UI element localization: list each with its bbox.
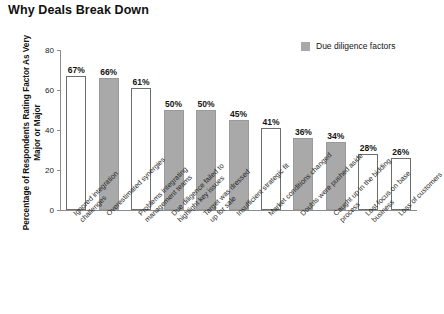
bar-value-label: 41% <box>262 117 279 127</box>
x-axis-category-labels: Ignored integrationchallengesOverestimat… <box>60 212 430 314</box>
bar-value-label: 50% <box>165 99 182 109</box>
y-axis-tick-mark-80 <box>57 50 60 51</box>
y-axis-tick-mark-60 <box>57 90 60 91</box>
y-axis-line <box>60 50 61 211</box>
bar-value-label: 26% <box>392 147 409 157</box>
y-axis-tick-mark-20 <box>57 170 60 171</box>
y-axis-tick-label-0: 0 <box>34 206 54 215</box>
bar-value-label: 66% <box>100 67 117 77</box>
bar-value-label: 50% <box>198 99 215 109</box>
y-axis-tick-mark-0 <box>57 210 60 211</box>
bar-value-label: 36% <box>295 127 312 137</box>
bar[interactable]: 67% <box>66 76 86 210</box>
bar-value-label: 67% <box>68 65 85 75</box>
y-axis-tick-label-40: 40 <box>34 126 54 135</box>
y-axis-tick-label-60: 60 <box>34 86 54 95</box>
bar-value-label: 45% <box>230 109 247 119</box>
chart-title: Why Deals Break Down <box>8 3 149 17</box>
bar-value-label: 34% <box>327 131 344 141</box>
bar-value-label: 28% <box>360 143 377 153</box>
y-axis-tick-label-80: 80 <box>34 46 54 55</box>
bar-value-label: 61% <box>133 77 150 87</box>
y-axis-tick-label-20: 20 <box>34 166 54 175</box>
y-axis-tick-mark-40 <box>57 130 60 131</box>
